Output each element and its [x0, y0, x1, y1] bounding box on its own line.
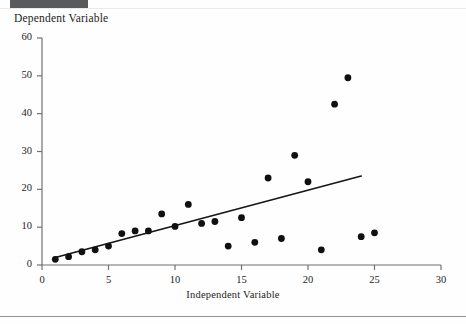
y-tick-label: 0: [6, 258, 32, 269]
y-tick-label: 50: [6, 69, 32, 80]
data-point: [198, 220, 205, 227]
data-point: [52, 256, 59, 263]
data-points: [52, 74, 378, 262]
y-tick-label: 40: [6, 107, 32, 118]
data-point: [92, 246, 99, 253]
trend-line: [55, 176, 361, 257]
data-point: [185, 201, 192, 208]
data-point: [358, 233, 365, 240]
figure-canvas: Dependent Variable 0102030405060 0510152…: [0, 0, 466, 324]
data-point: [212, 218, 219, 225]
data-point: [291, 152, 298, 159]
data-point: [65, 253, 72, 260]
data-point: [145, 228, 152, 235]
y-tick-label: 10: [6, 220, 32, 231]
data-point: [345, 74, 352, 81]
data-point: [238, 214, 245, 221]
data-point: [251, 239, 258, 246]
y-tick-label: 30: [6, 145, 32, 156]
data-point: [118, 230, 125, 237]
data-point: [105, 243, 112, 250]
data-point: [79, 248, 86, 255]
data-point: [318, 246, 325, 253]
data-point: [265, 175, 272, 182]
x-tick-label: 5: [94, 274, 124, 285]
axis-lines: [42, 38, 441, 265]
data-point: [225, 243, 232, 250]
data-point: [278, 235, 285, 242]
tick-marks: [37, 38, 441, 270]
x-tick-label: 20: [293, 274, 323, 285]
data-point: [172, 223, 179, 230]
x-axis-title: Independent Variable: [0, 289, 466, 300]
data-point: [331, 101, 338, 108]
x-tick-label: 0: [27, 274, 57, 285]
data-point: [305, 178, 312, 185]
plot-area: 0102030405060 051015202530: [0, 0, 466, 324]
x-tick-label: 15: [227, 274, 257, 285]
x-tick-label: 10: [160, 274, 190, 285]
data-point: [158, 211, 165, 218]
x-tick-label: 30: [426, 274, 456, 285]
bottom-divider: [0, 316, 466, 317]
data-point: [132, 228, 139, 235]
y-tick-label: 60: [6, 31, 32, 42]
data-point: [371, 229, 378, 236]
x-tick-label: 25: [360, 274, 390, 285]
y-tick-label: 20: [6, 182, 32, 193]
